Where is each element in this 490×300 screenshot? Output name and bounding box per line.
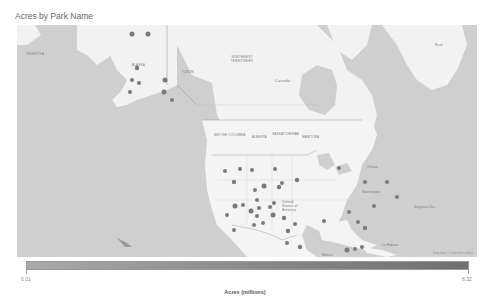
chart-title: Acres by Park Name [15, 11, 93, 21]
label-ottawa: Ottawa [367, 165, 378, 169]
legend-tick-min [26, 270, 27, 274]
label-chukotka: CHUKOTKA [26, 52, 44, 56]
label-washington: Washington [362, 190, 380, 194]
label-manitoba: MANITOBA [302, 135, 319, 139]
label-sargasso: Sargasso Sea [414, 205, 435, 209]
color-legend-bar [26, 261, 469, 270]
map-canvas[interactable]: CHUKOTKA ALASKA YUKON NORTHWEST TERRITOR… [17, 25, 477, 257]
label-bc: BRITISH COLUMBIA [214, 133, 246, 137]
legend-tick-max [468, 270, 469, 274]
label-havana: La Habana [382, 243, 398, 247]
label-mexico: México [322, 253, 333, 257]
label-usa: United States of America [282, 200, 304, 212]
label-canada: Canada [275, 78, 290, 83]
label-alberta: ALBERTA [252, 135, 267, 139]
label-saskatchewan: SASKATCHEWAN [272, 132, 299, 136]
legend-min-label: 0.01 [21, 276, 31, 282]
label-yukon: YUKON [182, 70, 194, 74]
label-nwt: NORTHWEST TERRITORIES [227, 55, 257, 63]
legend-title: Acres (millions) [0, 289, 490, 295]
label-alaska: ALASKA [132, 63, 145, 67]
legend-max-label: 8.32 [462, 276, 472, 282]
label-nuuk: Nuuk [435, 43, 443, 47]
map-attribution[interactable]: Map data © OpenStreetMap [433, 251, 473, 255]
